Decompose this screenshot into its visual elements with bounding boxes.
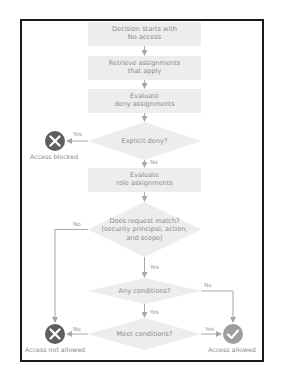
edge-label-match-yes: Yes bbox=[150, 264, 159, 270]
decision-explicit-deny-text: Explicit deny? bbox=[88, 137, 201, 145]
step-line: Evaluate bbox=[88, 92, 201, 100]
edge-label-meet-conditions-no: No bbox=[73, 326, 81, 332]
flowchart-graphics bbox=[0, 0, 282, 378]
check-circle-icon bbox=[223, 324, 243, 344]
step-line: Evaluate bbox=[88, 171, 201, 179]
decision-request-match-text: Does request match? (security principal,… bbox=[88, 217, 201, 242]
step-line: Decision starts with bbox=[88, 25, 201, 33]
step-eval-role-text: Evaluate role assignments bbox=[88, 171, 201, 188]
outcome-label-not-allowed: Access not allowed bbox=[25, 346, 85, 354]
x-circle-icon bbox=[45, 324, 65, 344]
decision-line: (security principal, action, bbox=[88, 225, 201, 233]
step-line: that apply bbox=[88, 67, 201, 75]
step-retrieve-text: Retrieve assignments that apply bbox=[88, 59, 201, 76]
edge-label-explicit-deny-yes: Yes bbox=[73, 131, 82, 137]
step-line: No access bbox=[88, 33, 201, 41]
decision-line: Any conditions? bbox=[88, 287, 201, 295]
step-start-text: Decision starts with No access bbox=[88, 25, 201, 42]
edge-label-meet-conditions-yes: Yes bbox=[205, 326, 214, 332]
decision-line: Does request match? bbox=[88, 217, 201, 225]
outcome-label-allowed: Access allowed bbox=[208, 346, 256, 354]
decision-line: Explicit deny? bbox=[88, 137, 201, 145]
decision-meet-conditions-text: Meet conditions? bbox=[88, 330, 201, 338]
edge-label-explicit-deny-no: No bbox=[150, 159, 158, 165]
outcome-label-blocked: Access blocked bbox=[30, 153, 78, 161]
step-eval-deny-text: Evaluate deny assignments bbox=[88, 92, 201, 109]
decision-line: Meet conditions? bbox=[88, 330, 201, 338]
x-circle-icon bbox=[45, 131, 65, 151]
edge-label-any-conditions-no: No bbox=[204, 282, 212, 288]
step-line: deny assignments bbox=[88, 100, 201, 108]
edge-label-match-no: No bbox=[73, 221, 81, 227]
decision-line: and scope) bbox=[88, 234, 201, 242]
edge-label-any-conditions-yes: Yes bbox=[150, 309, 159, 315]
step-line: role assignments bbox=[88, 179, 201, 187]
step-line: Retrieve assignments bbox=[88, 59, 201, 67]
decision-any-conditions-text: Any conditions? bbox=[88, 287, 201, 295]
